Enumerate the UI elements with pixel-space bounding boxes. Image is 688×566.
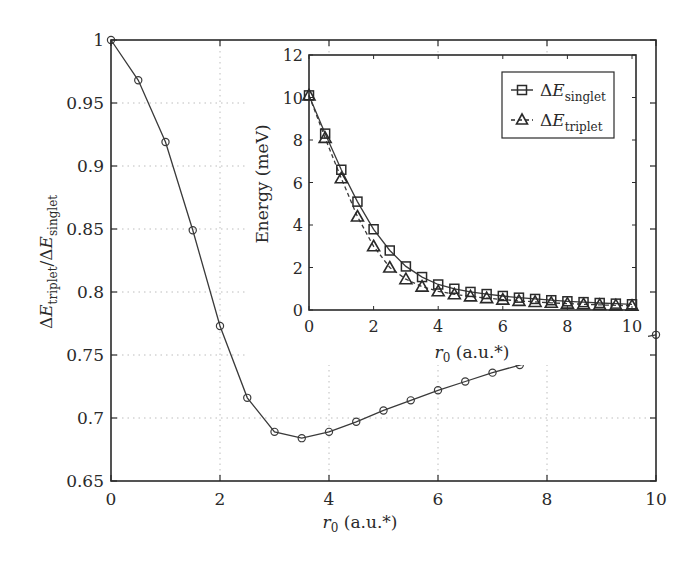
- inset-y-tick-label: 0: [293, 301, 303, 320]
- legend-delta-triplet: Δ: [540, 110, 552, 130]
- main-x-axis-label: r0 (a.u.*): [323, 512, 398, 535]
- main-y-tick-label: 0.7: [77, 408, 104, 428]
- inset-y-tick-label: 12: [283, 46, 303, 65]
- main-x-tick-label: 0: [106, 489, 117, 509]
- inset-y-tick-label: 4: [293, 216, 303, 235]
- legend-e-triplet: E: [551, 110, 565, 130]
- main-y-tick-label: 0.75: [66, 345, 104, 365]
- main-y-label-e-1: E: [36, 304, 56, 318]
- legend-sub-singlet: singlet: [565, 90, 606, 104]
- main-y-label-delta-1: Δ: [36, 317, 56, 329]
- legend-sub-triplet: triplet: [565, 120, 603, 134]
- main-x-axis-label-sub: 0: [331, 521, 339, 535]
- main-x-tick-label: 4: [324, 489, 335, 509]
- main-y-label-sub-den: singlet: [46, 195, 60, 236]
- main-x-tick-label: 6: [433, 489, 444, 509]
- inset-x-axis-label-unit: (a.u.*): [450, 342, 509, 362]
- inset-y-tick-label: 2: [293, 259, 303, 278]
- inset-y-axis-label: Energy (meV): [252, 124, 272, 243]
- main-y-tick-label: 0.9: [77, 156, 104, 176]
- main-x-tick-label: 8: [542, 489, 553, 509]
- inset-x-tick-label: 0: [304, 317, 314, 336]
- main-y-tick-label: 0.65: [66, 471, 104, 491]
- main-x-axis-label-unit: (a.u.*): [338, 512, 397, 532]
- main-x-tick-label: 2: [215, 489, 226, 509]
- inset-x-tick-label: 8: [562, 317, 572, 336]
- main-y-tick-label: 0.85: [66, 219, 104, 239]
- main-y-tick-labels: 0.650.70.750.80.850.90.951: [66, 30, 104, 491]
- inset-x-axis-label-sub: 0: [443, 351, 451, 365]
- inset-x-tick-label: 6: [498, 317, 508, 336]
- main-y-axis-label: ΔEtriplet/ΔEsinglet: [36, 195, 60, 329]
- main-x-tick-labels: 0246810: [106, 489, 667, 509]
- inset-y-tick-label: 6: [293, 174, 303, 193]
- legend-e-singlet: E: [551, 80, 565, 100]
- main-y-label-e-2: E: [36, 236, 56, 250]
- inset-y-tick-label: 10: [283, 89, 303, 108]
- chart-canvas: 0246810 0.650.70.750.80.850.90.951 r0 (a…: [0, 0, 688, 566]
- main-y-tick-label: 0.95: [66, 93, 104, 113]
- legend-delta-singlet: Δ: [540, 80, 552, 100]
- inset-y-tick-label: 8: [293, 131, 303, 150]
- main-y-label-delta-2: Δ: [36, 249, 56, 261]
- main-y-label-sub-num: triplet: [46, 266, 60, 304]
- main-x-tick-label: 10: [645, 489, 667, 509]
- main-y-tick-label: 1: [93, 30, 104, 50]
- legend: ΔEsinglet ΔEtriplet: [502, 72, 614, 138]
- inset-x-tick-label: 10: [622, 317, 642, 336]
- inset-x-tick-label: 2: [369, 317, 379, 336]
- main-y-tick-label: 0.8: [77, 282, 104, 302]
- inset-plot: 0246810 024681012 r0 (a.u.*) Energy (meV…: [248, 46, 648, 365]
- inset-x-tick-label: 4: [433, 317, 443, 336]
